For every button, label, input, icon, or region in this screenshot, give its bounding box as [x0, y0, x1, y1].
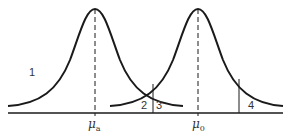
- region-label-3: 3: [156, 100, 162, 111]
- region-label-2: 2: [141, 100, 147, 111]
- region-label-1: 1: [29, 67, 35, 78]
- mean-0-label: μ0: [192, 118, 205, 133]
- diagram-canvas: [0, 0, 288, 133]
- region-label-4: 4: [248, 100, 254, 111]
- null-distribution-curve: [110, 9, 283, 106]
- mean-a-label: μa: [88, 118, 101, 133]
